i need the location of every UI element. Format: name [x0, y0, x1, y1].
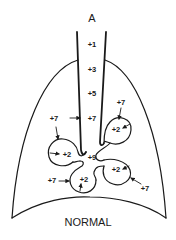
arrow-icon	[56, 127, 58, 139]
lung-outline	[12, 60, 166, 218]
pressure-label-3: +3	[88, 65, 97, 74]
pleural-label-top-right: +7	[117, 98, 126, 107]
airway-pressure-labels: +1 +3 +5 +7 +9	[88, 40, 97, 162]
pressure-label-9: +9	[88, 153, 97, 162]
alveolar-label-top-right: +2	[112, 125, 121, 134]
pleural-label-bottom-left: +7	[48, 176, 57, 185]
alveolar-label-left: +2	[63, 150, 72, 159]
arrow-icon	[50, 153, 59, 154]
pressure-label-1: +1	[88, 40, 97, 49]
lung-pressure-diagram: A +1 +3 +5 +7 +9 +7	[0, 0, 176, 240]
diagram-caption: NORMAL	[64, 216, 111, 228]
arrow-icon	[80, 184, 81, 191]
arrow-icon	[123, 124, 130, 128]
arrow-icon	[131, 178, 141, 184]
alveolar-label-bottom: +2	[80, 175, 89, 184]
diagram-title: A	[88, 12, 96, 24]
pleural-label-trachea: +7	[50, 114, 59, 123]
pleural-label-bottom-right: +7	[141, 184, 150, 193]
pleural-pressure-labels: +7 +7 +7 +7	[48, 98, 150, 193]
pressure-label-5: +5	[88, 89, 97, 98]
pressure-label-7: +7	[88, 114, 97, 123]
alveolar-label-bottom-right: +2	[112, 165, 121, 174]
